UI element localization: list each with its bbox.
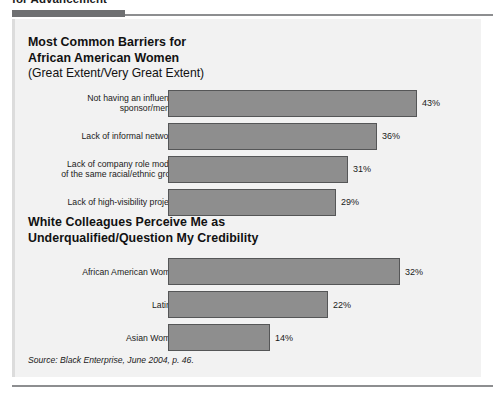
bar-label-line: Asian Women — [30, 332, 180, 342]
bar-label: Lack of company role models of the same … — [30, 159, 180, 180]
bar-row: Latinas 22% — [12, 291, 481, 318]
bar-row: Lack of high-visibility projects 29% — [12, 189, 481, 216]
bar-track: 31% — [168, 156, 348, 183]
bar-row: Asian Women 14% — [12, 324, 481, 351]
bar-fill — [168, 324, 270, 351]
chart-1-subtitle: (Great Extent/Very Great Extent) — [28, 66, 481, 82]
chart-block-credibility: White Colleagues Perceive Me as Underqua… — [12, 215, 481, 357]
bar-track: 14% — [168, 324, 270, 351]
bar-label-line: Not having an influential — [30, 93, 180, 103]
chart-2-title-line1: White Colleagues Perceive Me as — [28, 215, 481, 231]
bar-label: Not having an influential sponsor/mentor — [30, 93, 180, 114]
bar-track: 22% — [168, 291, 328, 318]
chart-1-title-line1: Most Common Barriers for — [28, 35, 481, 51]
bar-label-line: African American Women — [30, 266, 180, 276]
bar-value: 29% — [341, 197, 359, 207]
page-heading-cutoff: for Advancement — [12, 0, 107, 3]
bar-value: 22% — [333, 300, 351, 310]
source-suffix: , June 2004, p. 46. — [123, 355, 194, 365]
bar-value: 36% — [382, 131, 400, 141]
bar-value: 43% — [422, 98, 440, 108]
bar-label: Lack of informal networks — [30, 131, 180, 141]
top-rule-thick — [12, 10, 125, 17]
bar-label-line: of the same racial/ethnic group — [30, 169, 180, 179]
bar-label: Latinas — [30, 299, 180, 309]
bar-label: Asian Women — [30, 332, 180, 342]
bar-fill — [168, 258, 400, 285]
bar-fill — [168, 291, 328, 318]
chart-1-bars: Not having an influential sponsor/mentor… — [12, 90, 481, 216]
bottom-rule — [12, 385, 493, 387]
chart-2-bars: African American Women 32% Latinas 22% — [12, 258, 481, 351]
bar-label-line: Lack of high-visibility projects — [30, 197, 180, 207]
bar-value: 14% — [275, 333, 293, 343]
bar-fill — [168, 189, 336, 216]
figure-panel: Most Common Barriers for African America… — [12, 19, 481, 377]
chart-1-title-line2: African American Women — [28, 51, 481, 67]
bar-label-line: Lack of informal networks — [30, 131, 180, 141]
bar-fill — [168, 90, 417, 117]
bar-track: 29% — [168, 189, 336, 216]
top-rule-thin — [125, 14, 493, 16]
bar-label-line: Latinas — [30, 299, 180, 309]
bar-row: Lack of company role models of the same … — [12, 156, 481, 183]
bar-fill — [168, 123, 377, 150]
bar-label: Lack of high-visibility projects — [30, 197, 180, 207]
bar-fill — [168, 156, 348, 183]
bar-row: Lack of informal networks 36% — [12, 123, 481, 150]
chart-2-title-line2: Underqualified/Question My Credibility — [28, 231, 481, 247]
bar-value: 31% — [353, 164, 371, 174]
bar-label-line: Lack of company role models — [30, 159, 180, 169]
source-prefix: Source: — [28, 355, 60, 365]
bar-value: 32% — [405, 267, 423, 277]
source-note: Source: Black Enterprise, June 2004, p. … — [28, 355, 194, 365]
bar-label: African American Women — [30, 266, 180, 276]
bar-row: African American Women 32% — [12, 258, 481, 285]
bar-row: Not having an influential sponsor/mentor… — [12, 90, 481, 117]
bar-track: 36% — [168, 123, 377, 150]
chart-block-barriers: Most Common Barriers for African America… — [12, 35, 481, 222]
bar-track: 32% — [168, 258, 400, 285]
source-publication: Black Enterprise — [60, 355, 123, 365]
bar-track: 43% — [168, 90, 417, 117]
bar-label-line: sponsor/mentor — [30, 103, 180, 113]
